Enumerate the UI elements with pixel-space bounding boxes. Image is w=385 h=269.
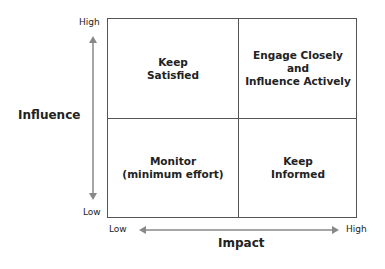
quadrant-label: Keep Satisfied — [147, 56, 199, 82]
x-axis-high-label: High — [346, 224, 367, 234]
quadrant-engage-closely: Engage Closely and Influence Actively — [239, 19, 357, 118]
quadrant-monitor: Monitor (minimum effort) — [108, 119, 238, 217]
horizontal-arrow-icon — [139, 226, 339, 234]
quadrant-label: Engage Closely and Influence Actively — [245, 49, 351, 88]
y-axis-title: Influence — [18, 108, 80, 122]
x-axis-low-label: Low — [109, 224, 127, 234]
quadrant-label: Keep Informed — [271, 155, 325, 181]
y-axis-high-label: High — [79, 17, 100, 27]
x-axis-title: Impact — [218, 236, 265, 250]
quadrant-label: Monitor (minimum effort) — [122, 155, 223, 181]
matrix-grid: Keep Satisfied Engage Closely and Influe… — [107, 18, 357, 218]
y-axis-low-label: Low — [83, 207, 101, 217]
quadrant-keep-informed: Keep Informed — [239, 119, 357, 217]
vertical-arrow-icon — [89, 36, 97, 200]
quadrant-keep-satisfied: Keep Satisfied — [108, 19, 238, 118]
